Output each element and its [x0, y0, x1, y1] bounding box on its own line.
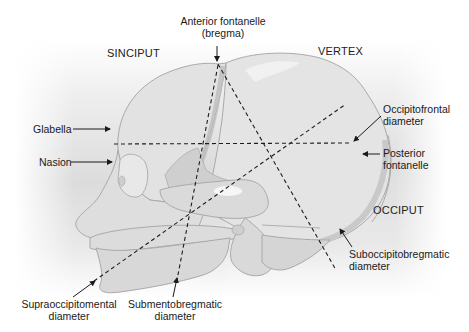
label-suboccipitobregmatic-diameter: Suboccipitobregmatic diameter [349, 248, 449, 272]
label-occipitofrontal-diameter: Occipitofrontal diameter [383, 103, 450, 127]
fetal-skull-diagram: SINCIPUT VERTEX OCCIPUT Anterior fontane… [0, 0, 469, 332]
label-supraoccipitomental-diameter: Supraoccipitomental diameter [14, 298, 124, 322]
ear-canal [232, 225, 244, 235]
region-label-vertex: VERTEX [318, 45, 363, 57]
label-posterior-fontanelle: Posterior fontanelle [383, 147, 429, 171]
region-label-sinciput: SINCIPUT [107, 47, 160, 59]
supraoccipitomental-arrow [73, 281, 95, 297]
orbit-foramen [119, 176, 125, 186]
region-label-occiput: OCCIPUT [373, 204, 424, 216]
occipital-bone [262, 235, 330, 270]
label-nasion: Nasion [39, 156, 72, 168]
label-anterior-fontanelle: Anterior fontanelle (bregma) [168, 15, 278, 39]
label-submentobregmatic-diameter: Submentobregmatic diameter [125, 298, 225, 322]
label-glabella: Glabella [33, 123, 72, 135]
